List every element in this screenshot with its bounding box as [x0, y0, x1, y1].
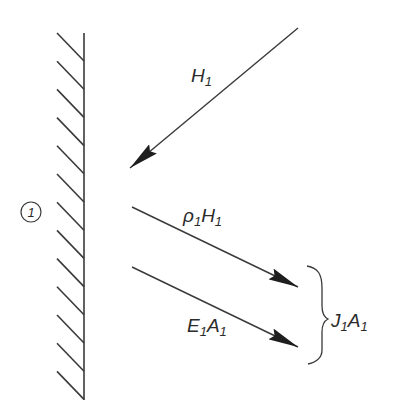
wall-hatch-mark	[57, 259, 84, 287]
wall-surface	[57, 33, 84, 400]
wall-hatch-mark	[57, 61, 84, 89]
wall-hatch-mark	[57, 89, 84, 117]
wall-hatch-mark	[57, 33, 84, 61]
region-number: 1	[27, 205, 34, 220]
region-label: 1	[21, 202, 41, 222]
radiosity-label: J1A1	[330, 310, 368, 334]
radiosity-brace-icon	[307, 266, 328, 364]
emitted-label: E1A1	[187, 315, 227, 339]
incident-label: H1	[191, 65, 212, 89]
reflected-label: ρ1H1	[182, 205, 222, 229]
incident-radiation-arrow	[130, 28, 298, 168]
wall-hatch-mark	[57, 118, 84, 146]
wall-hatch-mark	[57, 315, 84, 343]
wall-hatch-mark	[57, 174, 84, 202]
wall-hatch-mark	[57, 287, 84, 315]
wall-hatch-mark	[57, 343, 84, 371]
wall-hatch-mark	[57, 230, 84, 258]
wall-hatch-mark	[57, 202, 84, 230]
wall-hatch-mark	[57, 146, 84, 174]
radiation-balance-diagram: 1 H1 ρ1H1 E1A1 J1A1	[0, 0, 394, 420]
wall-hatch-mark	[57, 371, 84, 399]
